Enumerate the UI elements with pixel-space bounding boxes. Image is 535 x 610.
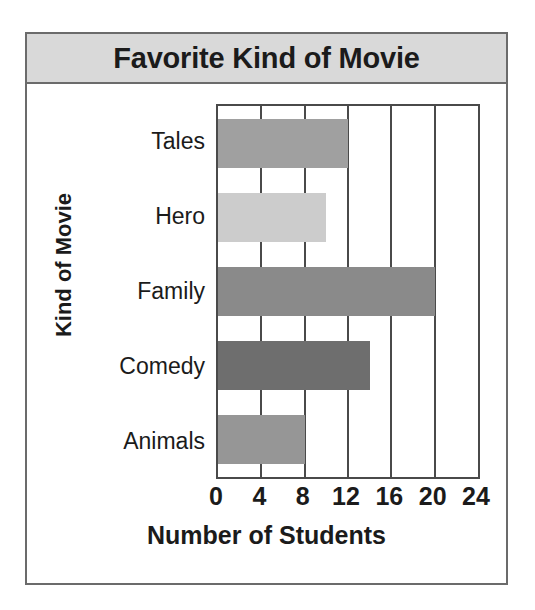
bar-hero <box>218 193 326 242</box>
chart-title-banner: Favorite Kind of Movie <box>27 34 506 84</box>
x-axis-title: Number of Students <box>27 521 506 550</box>
x-axis-tick-labels: 04812162024 <box>216 482 480 516</box>
category-label: Family <box>65 254 213 329</box>
bar-family <box>218 267 435 316</box>
x-tick-label: 24 <box>462 482 490 511</box>
bars-layer <box>218 106 478 477</box>
bar-row <box>218 329 478 403</box>
x-tick-label: 20 <box>419 482 447 511</box>
bar-row <box>218 403 478 477</box>
x-tick-label: 8 <box>296 482 310 511</box>
plot-area <box>216 104 480 479</box>
category-label: Comedy <box>65 329 213 404</box>
bar-row <box>218 180 478 254</box>
category-axis-labels: TalesHeroFamilyComedyAnimals <box>65 104 213 479</box>
chart-title: Favorite Kind of Movie <box>113 42 420 75</box>
category-label: Animals <box>65 404 213 479</box>
category-label: Hero <box>65 179 213 254</box>
x-tick-label: 0 <box>209 482 223 511</box>
chart-body: Kind of Movie TalesHeroFamilyComedyAnima… <box>27 84 506 583</box>
x-tick-label: 4 <box>252 482 266 511</box>
bar-row <box>218 106 478 180</box>
bar-tales <box>218 119 348 168</box>
bar-row <box>218 254 478 328</box>
category-label: Tales <box>65 104 213 179</box>
x-tick-label: 16 <box>375 482 403 511</box>
x-tick-label: 12 <box>332 482 360 511</box>
bar-comedy <box>218 341 370 390</box>
bar-animals <box>218 415 305 464</box>
chart-card: Favorite Kind of Movie Kind of Movie Tal… <box>25 32 508 585</box>
